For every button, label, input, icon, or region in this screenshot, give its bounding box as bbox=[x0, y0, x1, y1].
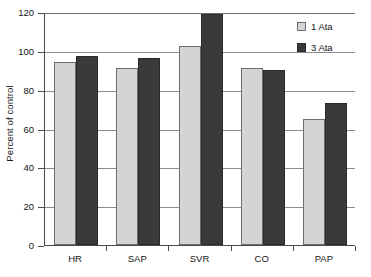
x-tick-label-co: CO bbox=[231, 253, 293, 264]
legend-item-3ata: 3 Ata bbox=[297, 40, 359, 55]
x-tick-label-pap: PAP bbox=[293, 253, 355, 264]
x-tick-label-sap: SAP bbox=[106, 253, 168, 264]
bar-hr-1ata bbox=[54, 62, 76, 245]
x-tick-4 bbox=[293, 246, 294, 251]
legend-label-1ata: 1 Ata bbox=[311, 22, 333, 32]
legend-item-1ata: 1 Ata bbox=[297, 19, 359, 34]
bar-hr-3ata bbox=[76, 56, 98, 245]
bar-sap-1ata bbox=[116, 68, 138, 245]
legend-label-3ata: 3 Ata bbox=[311, 43, 333, 53]
bar-svr-1ata bbox=[179, 46, 201, 245]
y-tick-label-120: 120 bbox=[0, 8, 34, 18]
legend-swatch-1ata bbox=[297, 22, 306, 31]
y-tick-0 bbox=[38, 246, 44, 247]
x-tick-2 bbox=[168, 246, 169, 251]
y-tick-label-40: 40 bbox=[0, 163, 34, 173]
y-tick-label-100: 100 bbox=[0, 47, 34, 57]
y-tick-label-80: 80 bbox=[0, 86, 34, 96]
legend: 1 Ata 3 Ata bbox=[297, 19, 359, 61]
bar-chart: Percent of control 020406080100120 HRSAP… bbox=[0, 0, 371, 277]
y-axis-title-text: Percent of control bbox=[4, 85, 15, 161]
x-tick-label-hr: HR bbox=[44, 253, 106, 264]
x-tick-1 bbox=[106, 246, 107, 251]
bar-co-1ata bbox=[241, 68, 263, 245]
x-tick-3 bbox=[231, 246, 232, 251]
y-tick-label-60: 60 bbox=[0, 125, 34, 135]
bar-svr-3ata bbox=[201, 14, 223, 245]
y-tick-label-20: 20 bbox=[0, 202, 34, 212]
y-tick-label-0: 0 bbox=[0, 241, 34, 251]
bar-pap-3ata bbox=[325, 103, 347, 245]
bar-sap-3ata bbox=[138, 58, 160, 245]
bar-co-3ata bbox=[263, 70, 285, 245]
x-tick-label-svr: SVR bbox=[168, 253, 230, 264]
legend-swatch-3ata bbox=[297, 43, 306, 52]
bar-pap-1ata bbox=[303, 119, 325, 245]
x-tick-5 bbox=[355, 246, 356, 251]
